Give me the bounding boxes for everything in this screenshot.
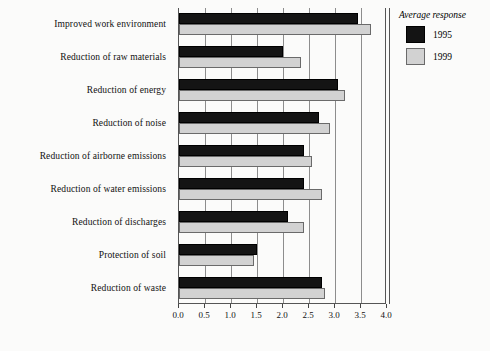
x-tick-7 [360, 304, 361, 308]
x-tick-label-7: 3.5 [354, 310, 365, 320]
legend-label-1999: 1999 [433, 52, 452, 62]
x-tick-8 [386, 304, 387, 308]
x-tick-2 [230, 304, 231, 308]
x-tick-6 [334, 304, 335, 308]
bar-1999-6 [179, 222, 304, 233]
x-tick-label-3: 1.5 [250, 310, 261, 320]
category-label-8: Reduction of waste [0, 283, 166, 293]
x-tick-5 [308, 304, 309, 308]
x-tick-4 [282, 304, 283, 308]
bar-1999-3 [179, 123, 330, 134]
category-label-5: Reduction of water emissions [0, 184, 166, 194]
bar-1999-1 [179, 57, 301, 68]
bar-1995-1 [179, 46, 283, 57]
x-tick-label-6: 3.0 [328, 310, 339, 320]
bar-1999-7 [179, 255, 254, 266]
category-label-7: Protection of soil [0, 250, 166, 260]
bar-1995-6 [179, 211, 288, 222]
x-tick-label-4: 2.0 [276, 310, 287, 320]
x-tick-label-1: 0.5 [198, 310, 209, 320]
legend-item-1999: 1999 [399, 48, 487, 65]
bar-1999-4 [179, 156, 312, 167]
category-axis-labels: Improved work environmentReduction of ra… [0, 8, 172, 304]
bar-1999-8 [179, 288, 325, 299]
chart-figure: Improved work environmentReduction of ra… [0, 0, 490, 351]
x-tick-label-5: 2.5 [302, 310, 313, 320]
gridline [361, 8, 362, 303]
bar-1999-0 [179, 24, 371, 35]
bar-1995-4 [179, 145, 304, 156]
bar-1995-2 [179, 79, 338, 90]
figure-right-border [389, 8, 390, 304]
legend-label-1995: 1995 [433, 30, 452, 40]
x-axis: 0.00.51.01.52.02.53.03.54.0 [178, 304, 386, 334]
category-label-1: Reduction of raw materials [0, 52, 166, 62]
category-label-6: Reduction of discharges [0, 217, 166, 227]
bar-1995-8 [179, 277, 322, 288]
x-tick-label-2: 1.0 [224, 310, 235, 320]
legend-swatch-1995 [406, 26, 425, 43]
legend-title: Average response [399, 10, 487, 20]
bar-1995-3 [179, 112, 319, 123]
bar-1995-0 [179, 13, 358, 24]
bar-1999-5 [179, 189, 322, 200]
bar-1999-2 [179, 90, 345, 101]
x-tick-0 [178, 304, 179, 308]
chart-legend: Average response 1995 1999 [399, 10, 487, 70]
legend-swatch-1999 [406, 48, 425, 65]
category-label-2: Reduction of energy [0, 85, 166, 95]
gridline [335, 8, 336, 303]
x-tick-label-8: 4.0 [380, 310, 391, 320]
bar-1995-5 [179, 178, 304, 189]
category-label-4: Reduction of airborne emissions [0, 151, 166, 161]
category-label-3: Reduction of noise [0, 118, 166, 128]
x-tick-label-0: 0.0 [172, 310, 183, 320]
x-tick-1 [204, 304, 205, 308]
x-tick-3 [256, 304, 257, 308]
plot-area [178, 8, 386, 304]
bar-1995-7 [179, 244, 257, 255]
category-label-0: Improved work environment [0, 19, 166, 29]
legend-item-1995: 1995 [399, 26, 487, 43]
